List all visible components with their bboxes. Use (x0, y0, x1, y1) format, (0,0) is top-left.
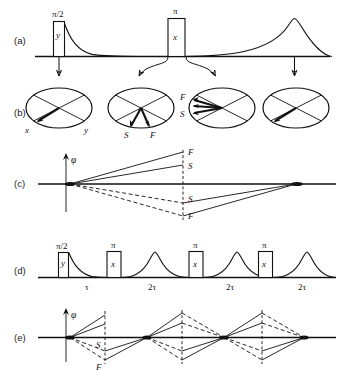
vector-diagram-dephasing: S F (108, 88, 174, 140)
row-d-pi-pulse-2: π x (189, 240, 203, 278)
row-a-to-b-connectors (57, 57, 297, 76)
pi-pulse-axis-label: x (172, 32, 177, 42)
row-d-pi-over-2-label: π/2 (56, 241, 68, 251)
row-e-s2-down-a (147, 338, 182, 361)
row-d-interval-2tau-3: 2τ (298, 282, 307, 292)
row-label-b: (b) (14, 107, 26, 118)
row-c-slow-down-dashed (70, 184, 183, 203)
row-d-pi-label-2: π (193, 240, 198, 250)
axis-label-x: x (24, 125, 29, 135)
row-label-e: (e) (14, 332, 26, 343)
pi-over-2-pulse-label: π/2 (52, 9, 64, 19)
row-d-pi-pulse-3: π x (259, 240, 273, 278)
row-d-pi-axis-1: x (110, 259, 115, 269)
row-d-pi-axis-3: x (261, 259, 266, 269)
free-induction-decay (64, 22, 140, 57)
connector-3-head (211, 70, 216, 76)
fast-label-3: F (179, 92, 186, 102)
row-c: (c) φ F S S F (14, 147, 336, 221)
row-label-a: (a) (14, 35, 26, 46)
connector-2-head (139, 70, 144, 76)
row-d-pi-axis-2: x (192, 259, 197, 269)
row-d-pi-pulse-1: π x (107, 240, 121, 278)
row-c-echo-blob (291, 182, 303, 186)
row-a-pi-pulse: π x (168, 6, 185, 57)
vector-diagram-after-90: x y (24, 88, 92, 135)
spin-echo-signal (185, 19, 332, 57)
row-label-c: (c) (14, 178, 25, 189)
figure-canvas: (a) π/2 y π x (0, 0, 347, 372)
row-a: (a) π/2 y π x (14, 6, 332, 76)
row-e-phi-label: φ (71, 310, 76, 320)
row-d: (d) π/2 y π x π x π x (14, 240, 336, 292)
vector-diagram-refocused (263, 88, 329, 128)
pi-pulse-label: π (173, 6, 178, 16)
fast-label-2: F (149, 130, 156, 140)
row-c-phi-label: φ (71, 155, 76, 165)
row-label-d: (d) (14, 265, 26, 276)
spin-echo-figure: (a) π/2 y π x (0, 0, 347, 372)
slow-label-2: S (124, 130, 129, 140)
row-c-marker-S-lower: S (188, 194, 193, 204)
row-e-echo-blob-3 (300, 336, 309, 340)
row-d-pi-label-3: π (262, 240, 267, 250)
row-c-fast-down-dashed (70, 184, 183, 216)
row-d-interval-tau: τ (85, 282, 89, 292)
row-a-pi-over-2-pulse: π/2 y (52, 9, 65, 57)
row-c-marker-S-upper: S (188, 161, 193, 171)
row-e-s3-mirror-b (262, 323, 304, 338)
vector-diagram-after-180: F S (179, 88, 255, 128)
slow-label-3: S (180, 109, 185, 119)
pi-over-2-pulse-axis-label: y (55, 30, 60, 40)
row-d-echo-1 (121, 252, 189, 278)
row-d-pi-over-2-axis: y (60, 258, 65, 268)
row-d-fid (69, 253, 107, 278)
row-d-pi-label-1: π (111, 240, 116, 250)
row-d-interval-2tau-2: 2τ (226, 282, 235, 292)
row-d-pi-over-2-pulse: π/2 y (56, 241, 69, 278)
row-e-s2-mirror-b (182, 323, 224, 338)
row-c-marker-F-lower: F (187, 211, 194, 221)
row-b: (b) x y S F (14, 88, 329, 140)
row-d-interval-2tau-1: 2τ (148, 282, 157, 292)
row-e-marker-S: S (96, 340, 101, 350)
row-c-marker-F-upper: F (187, 147, 194, 157)
axis-label-y: y (83, 125, 88, 135)
row-e-marker-F: F (95, 362, 102, 372)
row-d-echo-3 (273, 252, 336, 278)
row-e: (e) φ S F (14, 308, 336, 372)
